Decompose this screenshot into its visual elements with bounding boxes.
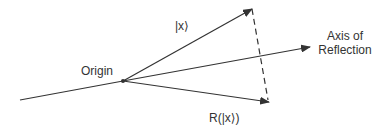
origin-point (121, 79, 125, 83)
ket-x-label: |x⟩ (175, 19, 189, 33)
axis-line-back-extension (20, 81, 123, 100)
reflected-vector-label: R(|x⟩) (209, 111, 239, 125)
reflected-vector-arrow (123, 81, 269, 102)
axis-of-reflection-label: Axis of Reflection (315, 29, 375, 57)
reflection-diagram: Origin |x⟩ Axis of Reflection R(|x⟩) (0, 0, 392, 137)
origin-label: Origin (81, 64, 113, 78)
axis-label-line1: Axis of (315, 29, 375, 43)
axis-of-reflection-arrow (123, 47, 310, 81)
diagram-canvas (0, 0, 392, 137)
axis-label-line2: Reflection (315, 43, 375, 57)
